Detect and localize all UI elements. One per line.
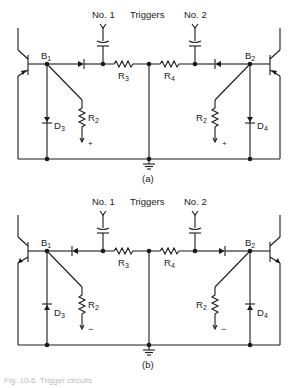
trigger-2-label-a: No. 2 — [184, 10, 207, 20]
resistor-r3-label-b: R3 — [118, 258, 129, 269]
node-b2-label-a: B2 — [245, 51, 255, 62]
resistor-r2-right-label-a: R2 — [196, 113, 207, 124]
diode-d4-label-a: D4 — [257, 121, 268, 132]
transistor-left-a — [18, 28, 47, 159]
triggers-label-b: Triggers — [130, 197, 165, 207]
resistor-r2-left-label-b: R2 — [88, 300, 99, 311]
node-b1-label-a: B1 — [41, 51, 51, 62]
panel-b-label: (b) — [142, 360, 154, 370]
trigger-1-label-b: No. 1 — [92, 197, 115, 207]
diode-d3-label-b: D3 — [54, 308, 65, 319]
node-b2-label-b: B2 — [245, 238, 255, 249]
resistor-r2-left-label-a: R2 — [88, 113, 99, 124]
bias-polarity-left-b: − — [88, 325, 93, 334]
resistor-r4-label-a: R4 — [164, 71, 175, 82]
triggers-label-a: Triggers — [130, 10, 165, 20]
trigger-2-label-b: No. 2 — [184, 197, 207, 207]
node-b1-label-b: B1 — [41, 238, 51, 249]
panel-a — [18, 24, 280, 169]
trigger-1-label-a: No. 1 — [92, 10, 115, 20]
bias-polarity-right-a: + — [222, 140, 227, 148]
diode-d4-label-b: D4 — [257, 308, 268, 319]
transistor-right-a — [250, 28, 280, 159]
resistor-r3-label-a: R3 — [118, 71, 129, 82]
figure-caption: Fig. 10-6. Trigger circuits — [4, 376, 92, 385]
resistor-r2-right-label-b: R2 — [196, 300, 207, 311]
transistor-left-b — [18, 215, 47, 345]
bias-polarity-left-a: + — [88, 140, 93, 148]
panel-a-label: (a) — [142, 174, 154, 184]
transistor-right-b — [250, 215, 280, 345]
resistor-r4-label-b: R4 — [164, 258, 175, 269]
bias-polarity-right-b: − — [221, 325, 226, 334]
diode-d3-label-a: D3 — [54, 121, 65, 132]
panel-b — [18, 211, 280, 355]
